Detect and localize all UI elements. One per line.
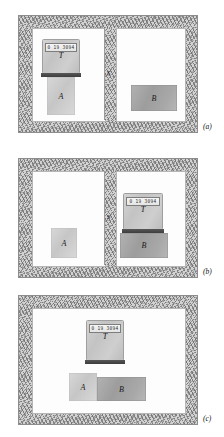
caption-a: (a) (203, 122, 212, 131)
thermoscope-label-c: T (86, 332, 124, 341)
thermoscope-label-b: T (123, 205, 163, 214)
body-b-label-panel-b: B (141, 241, 146, 250)
body-a-panel-c: A (69, 373, 97, 401)
thermoscope-reading-c: 0 19 3094 (92, 325, 119, 331)
thermoscope-reading-a: 0 19 3094 (48, 44, 75, 50)
body-b-panel-a: B (131, 85, 177, 111)
thermoscope-a: 0 19 3094 T (42, 39, 80, 77)
thermoscope-base-c (85, 360, 125, 364)
thermoscope-label-a: T (42, 51, 80, 60)
body-b-label-panel-c: B (119, 385, 124, 394)
body-a-panel-b: A (51, 228, 77, 258)
body-a-label-panel-a: A (58, 92, 63, 101)
thermoscope-c: 0 19 3094 T (86, 320, 124, 364)
wall-label-s-b: S (107, 213, 110, 220)
thermoscope-reading-b: 0 19 3094 (130, 198, 157, 204)
body-b-panel-b: B (120, 233, 168, 258)
thermoscope-b: 0 19 3094 T (123, 193, 163, 233)
body-a-panel-a: A (47, 77, 75, 115)
body-b-label-panel-a: B (151, 94, 156, 103)
panel-b: S A 0 19 3094 T B (18, 158, 198, 278)
body-a-label-panel-b: A (61, 239, 66, 248)
panel-c: 0 19 3094 T A B (18, 295, 198, 425)
caption-b: (b) (203, 267, 212, 276)
body-b-panel-c: B (97, 377, 146, 401)
panel-a: S 0 19 3094 T A B (18, 15, 198, 133)
wall-label-s-a: S (107, 69, 110, 76)
body-a-label-panel-c: A (80, 383, 85, 392)
caption-c: (c) (203, 414, 211, 423)
